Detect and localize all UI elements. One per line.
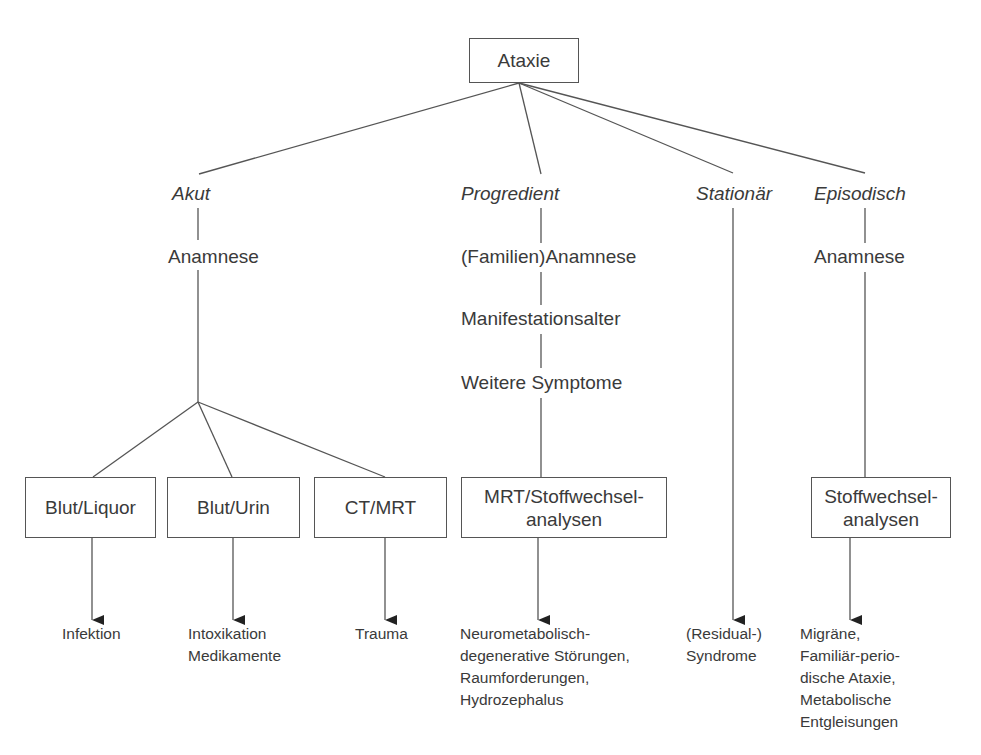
step-episodisch-anamnese: Anamnese — [813, 246, 906, 268]
root-node-ataxie: Ataxie — [469, 38, 579, 83]
result-infektion: Infektion — [62, 623, 121, 645]
step-akut-anamnese: Anamnese — [167, 246, 260, 268]
category-episodisch: Episodisch — [813, 183, 907, 205]
result-trauma: Trauma — [355, 623, 408, 645]
test-box-mrt-stoffwechselanalysen: MRT/Stoffwechsel- analysen — [461, 477, 667, 538]
test-box-blut-liquor: Blut/Liquor — [25, 477, 156, 538]
step-progredient-weitere-symptome: Weitere Symptome — [460, 372, 623, 394]
result-intoxikation-medikamente: Intoxikation Medikamente — [188, 623, 281, 667]
test-box-stoffwechselanalysen: Stoffwechsel- analysen — [811, 477, 951, 538]
test-box-blut-urin: Blut/Urin — [167, 477, 300, 538]
category-akut: Akut — [171, 183, 211, 205]
result-neurometabolisch: Neurometabolisch- degenerative Störungen… — [460, 623, 630, 711]
result-residual-syndrome: (Residual-) Syndrome — [686, 623, 762, 667]
result-migraene-ataxie-entgleisungen: Migräne, Familiär-perio- dische Ataxie, … — [800, 623, 900, 733]
category-progredient: Progredient — [460, 183, 560, 205]
test-box-ct-mrt: CT/MRT — [314, 477, 447, 538]
step-progredient-manifestationsalter: Manifestationsalter — [460, 308, 621, 330]
category-stationaer: Stationär — [695, 183, 773, 205]
step-progredient-familienanamnese: (Familien)Anamnese — [460, 246, 637, 268]
